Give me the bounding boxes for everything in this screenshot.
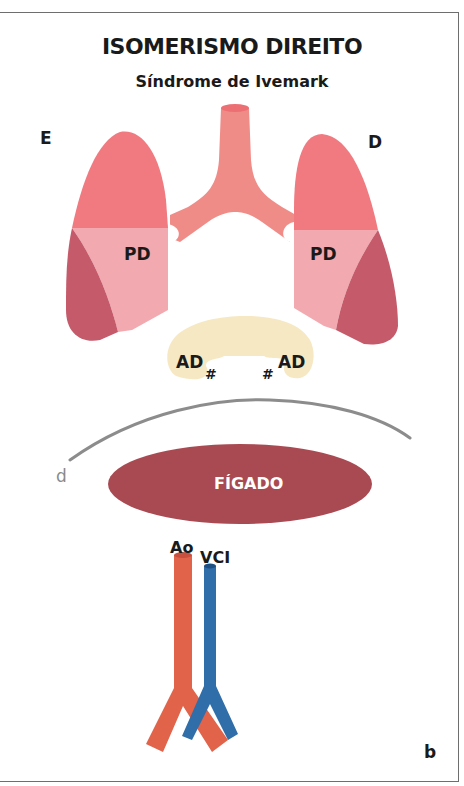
left-side-label: E (40, 128, 52, 148)
right-lung-icon (283, 134, 398, 344)
right-atrium-label: AD (278, 352, 305, 372)
left-atrium-marker: # (205, 366, 217, 382)
aorta-label: Ao (170, 538, 193, 557)
left-lung-label: PD (124, 244, 151, 264)
left-atrium-label: AD (176, 352, 203, 372)
left-lung-icon (66, 132, 179, 341)
diaphragm-label: d (56, 466, 67, 486)
anatomy-diagram (0, 0, 464, 786)
panel-label: b (424, 742, 436, 762)
right-side-label: D (368, 132, 382, 152)
trachea-icon (170, 104, 296, 242)
right-lung-label: PD (310, 244, 337, 264)
ivc-label: VCI (200, 548, 230, 567)
right-atrium-marker: # (262, 366, 274, 382)
liver-label: FÍGADO (214, 474, 283, 493)
